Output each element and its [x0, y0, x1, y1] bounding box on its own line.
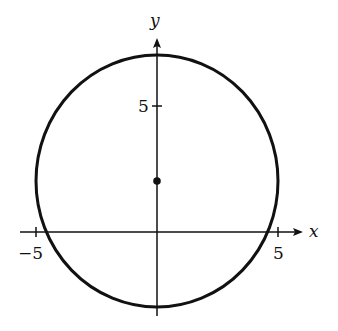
y-axis-label: y	[149, 10, 160, 30]
center-point	[153, 177, 161, 185]
y-tick-label-5: 5	[138, 96, 149, 116]
x-tick-label-neg5: −5	[18, 243, 43, 263]
x-axis-label: x	[309, 221, 319, 241]
coordinate-diagram: x y −5 5 5	[0, 0, 338, 331]
x-tick-label-5: 5	[273, 243, 284, 263]
